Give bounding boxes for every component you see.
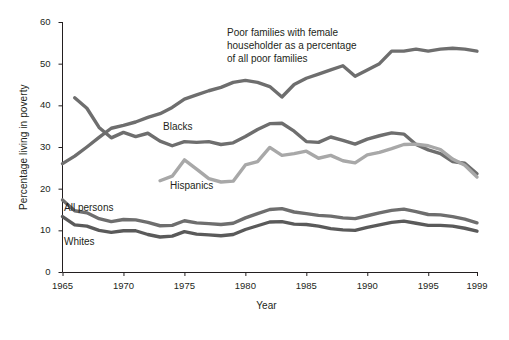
y-axis-ticks xyxy=(59,23,63,273)
series-label-blacks: Blacks xyxy=(163,120,192,133)
x-tick-label: 1995 xyxy=(408,280,448,291)
series-annotation-female-householder: Poor families with female householder as… xyxy=(227,26,357,65)
annotation-line-3: of all poor families xyxy=(227,52,357,65)
y-tick-label: 50 xyxy=(29,58,51,69)
x-tick-label: 1999 xyxy=(457,280,497,291)
series-line-blacks xyxy=(75,98,477,174)
y-tick-label: 60 xyxy=(29,16,51,27)
x-axis-title: Year xyxy=(12,300,509,311)
x-tick-label: 1965 xyxy=(43,280,83,291)
annotation-line-2: householder as a percentage xyxy=(227,39,357,52)
x-tick-label: 1980 xyxy=(225,280,265,291)
x-tick-label: 1990 xyxy=(347,280,387,291)
y-tick-label: 40 xyxy=(29,99,51,110)
x-tick-label: 1985 xyxy=(286,280,326,291)
y-tick-label: 20 xyxy=(29,183,51,194)
y-tick-label: 10 xyxy=(29,224,51,235)
y-tick-label: 30 xyxy=(29,141,51,152)
annotation-line-1: Poor families with female xyxy=(227,26,357,39)
series-label-hispanics: Hispanics xyxy=(170,179,213,192)
x-tick-label: 1970 xyxy=(103,280,143,291)
y-tick-label: 0 xyxy=(29,266,51,277)
series-label-whites: Whites xyxy=(64,235,95,248)
series-lines xyxy=(63,48,478,237)
poverty-line-chart: Percentage living in poverty Year 010203… xyxy=(0,0,509,340)
x-tick-label: 1975 xyxy=(164,280,204,291)
y-axis-title: Percentage living in poverty xyxy=(18,84,29,210)
series-label-all-persons: All persons xyxy=(64,201,113,214)
